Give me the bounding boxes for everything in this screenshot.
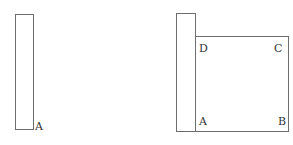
label-c: C — [274, 43, 282, 54]
label-a: A — [199, 116, 207, 127]
right-strip-rectangle — [176, 13, 196, 132]
left-strip-rectangle — [15, 14, 34, 130]
label-d: D — [199, 43, 208, 54]
label-b: B — [278, 116, 286, 127]
label-a-left: A — [35, 121, 43, 132]
